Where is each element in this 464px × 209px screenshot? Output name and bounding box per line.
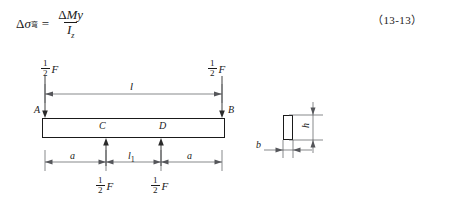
span-label: l	[130, 80, 133, 92]
formula-delta: Δ	[16, 16, 24, 32]
load-right-numerator: 1	[151, 176, 160, 185]
height-arrowhead-top	[311, 108, 316, 116]
span-arrowhead-right	[214, 91, 222, 96]
load-point-left-label: C	[99, 120, 106, 131]
load-right-fraction: 1 2	[151, 176, 160, 195]
span-arrowhead-left	[45, 91, 53, 96]
numerator-delta: Δ	[58, 7, 66, 22]
dim-a-left-arrow-end	[99, 160, 107, 165]
load-right-denominator: 2	[151, 185, 160, 195]
load-right-label: 1 2 F	[151, 176, 168, 195]
width-arrowhead-left	[276, 148, 284, 153]
dim-a-right-arrow-end	[215, 160, 223, 165]
dim-a-left-arrow-start	[45, 160, 53, 165]
load-right-arrowhead	[158, 138, 164, 146]
support-right-label: B	[228, 104, 234, 115]
load-point-right-label: D	[159, 120, 166, 131]
numerator-M: M	[67, 7, 78, 22]
beam-rectangle	[42, 118, 225, 138]
formula-fraction: ΔMy Iz	[55, 8, 86, 40]
load-left-fraction: 1 2	[96, 176, 105, 195]
load-left-label: 1 2 F	[96, 176, 113, 195]
cross-section-height-label: h	[300, 123, 311, 128]
load-left-force-symbol: F	[107, 180, 114, 192]
load-left-denominator: 2	[96, 185, 105, 195]
dim-right-label: a	[187, 150, 192, 161]
numerator-y: y	[77, 7, 83, 22]
equation-number: （13-13）	[372, 11, 422, 27]
cross-section-width-dimension	[262, 140, 322, 160]
support-left-label: A	[34, 104, 40, 115]
reaction-left-arrowhead	[42, 111, 48, 119]
formula-numerator: ΔMy	[55, 8, 86, 22]
width-arrowhead-right	[293, 148, 301, 153]
formula-bending-stress: Δσ弯 = ΔMy Iz	[16, 8, 88, 40]
dim-middle-label: l1	[128, 150, 135, 164]
dim-l1-arrow-end	[154, 160, 162, 165]
dim-a-right-arrow-start	[161, 160, 169, 165]
formula-denominator: Iz	[64, 22, 77, 40]
formula-sigma-subscript: 弯	[31, 19, 38, 29]
dim-l1-arrow-start	[106, 160, 114, 165]
denominator-subscript: z	[71, 30, 74, 39]
dim-middle-subscript: 1	[131, 155, 135, 164]
dim-left-label: a	[70, 150, 75, 161]
figure-bending-stress: Δσ弯 = ΔMy Iz （13-13） 1 2 F 1 2 F	[0, 0, 464, 209]
load-left-numerator: 1	[96, 176, 105, 185]
formula-equals: =	[42, 16, 49, 32]
load-right-force-symbol: F	[162, 180, 169, 192]
cross-section-width-label: b	[256, 139, 261, 150]
reaction-right-arrowhead	[219, 111, 225, 119]
span-dimension	[0, 84, 240, 104]
bottom-dimension-chain	[0, 150, 240, 172]
load-left-arrowhead	[103, 138, 109, 146]
